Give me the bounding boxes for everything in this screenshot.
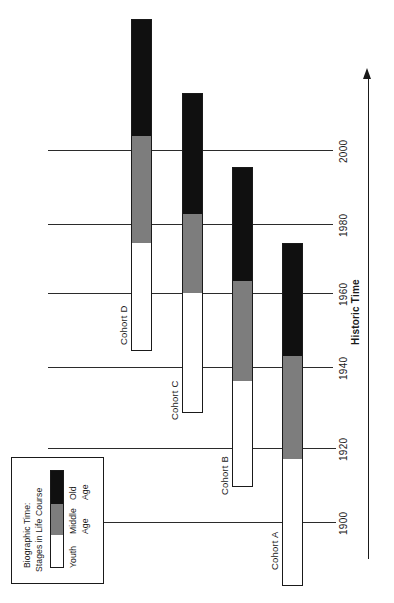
cohort-bar-b[interactable] <box>232 167 253 487</box>
legend-key-middle-l2: Age <box>80 518 90 534</box>
axis-title-historic-time: Historic Time <box>350 279 361 345</box>
segment-old-age-d <box>132 20 151 136</box>
legend-key-old-l1: Old <box>68 486 78 500</box>
legend-swatch-youth <box>51 535 63 567</box>
segment-middle-age-d <box>132 136 151 243</box>
segment-middle-age-a <box>283 356 302 459</box>
legend-title-line1: Biographic Time: <box>22 502 32 568</box>
tick-label-1900: 1900 <box>338 512 349 535</box>
tick-mark-1920 <box>325 448 336 449</box>
historic-time-axis-line <box>368 79 369 559</box>
legend-swatch <box>50 470 64 568</box>
tick-label-1920: 1920 <box>338 438 349 461</box>
legend-title-line2: Stages in Life Course <box>34 488 44 572</box>
cohort-bar-d[interactable] <box>131 19 152 351</box>
segment-middle-age-c <box>183 214 202 293</box>
chart-canvas: Cohort D Cohort C Cohort B Cohort A 2000… <box>0 0 394 603</box>
legend-key-old-l2: Age <box>80 484 90 500</box>
legend-swatch-middle-age <box>51 504 63 536</box>
segment-old-age-b <box>233 168 252 281</box>
segment-youth-b <box>233 381 252 486</box>
legend-key-middle-l1: Middle <box>68 508 78 534</box>
legend-swatch-old-age <box>51 471 63 504</box>
tick-label-1940: 1940 <box>338 357 349 380</box>
cohort-label-d: Cohort D <box>118 305 129 345</box>
segment-old-age-a <box>283 244 302 356</box>
tick-label-1980: 1980 <box>338 214 349 237</box>
tick-label-2000: 2000 <box>338 140 349 163</box>
cohort-label-c: Cohort C <box>169 380 180 420</box>
cohort-label-b: Cohort B <box>219 456 230 495</box>
segment-youth-d <box>132 243 151 350</box>
segment-youth-a <box>283 459 302 585</box>
segment-youth-c <box>183 293 202 412</box>
cohort-bar-c[interactable] <box>182 93 203 413</box>
cohort-bar-a[interactable] <box>282 243 303 586</box>
legend-key-youth: Youth <box>68 546 78 568</box>
cohort-label-a: Cohort A <box>269 531 280 570</box>
segment-middle-age-b <box>233 281 252 381</box>
tick-mark-1900 <box>325 522 336 523</box>
segment-old-age-c <box>183 94 202 214</box>
arrow-up-icon <box>363 68 371 79</box>
tick-label-1960: 1960 <box>338 283 349 306</box>
